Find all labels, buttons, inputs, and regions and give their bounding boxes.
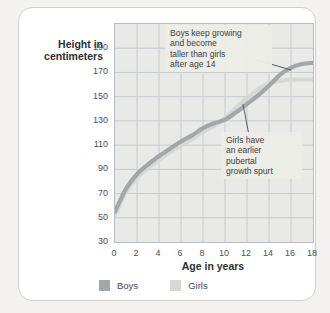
x-axis-title: Age in years: [114, 260, 312, 272]
x-tick-0: 0: [102, 248, 126, 258]
legend: BoysGirls: [99, 280, 299, 291]
x-tick-8: 8: [190, 248, 214, 258]
girls-note: Girls have an earlier pubertal growth sp…: [221, 132, 302, 179]
legend-label-girls: Girls: [188, 280, 208, 291]
screenshot-root: { "chart_data": { "type": "line", "ylabe…: [0, 0, 330, 313]
boys-note: Boys keep growing and become taller than…: [165, 25, 272, 72]
x-tick-4: 4: [146, 248, 170, 258]
y-tick-170: 170: [80, 66, 108, 76]
x-tick-14: 14: [256, 248, 280, 258]
x-tick-18: 18: [300, 248, 324, 258]
y-tick-190: 190: [80, 42, 108, 52]
y-tick-130: 130: [80, 115, 108, 125]
legend-label-boys: Boys: [117, 280, 138, 291]
x-tick-2: 2: [124, 248, 148, 258]
y-tick-30: 30: [80, 236, 108, 246]
x-tick-6: 6: [168, 248, 192, 258]
legend-entry-girls: Girls: [170, 280, 208, 291]
y-tick-150: 150: [80, 91, 108, 101]
x-tick-16: 16: [278, 248, 302, 258]
y-tick-90: 90: [80, 163, 108, 173]
legend-swatch-boys: [99, 280, 110, 291]
y-tick-110: 110: [80, 139, 108, 149]
y-tick-70: 70: [80, 188, 108, 198]
y-tick-50: 50: [80, 212, 108, 222]
legend-swatch-girls: [170, 280, 181, 291]
girls-note-leader-line: [243, 104, 249, 135]
legend-entry-boys: Boys: [99, 280, 138, 291]
chart-card: Height in centimeters 190170150130110907…: [18, 7, 316, 301]
x-tick-12: 12: [234, 248, 258, 258]
x-tick-10: 10: [212, 248, 236, 258]
